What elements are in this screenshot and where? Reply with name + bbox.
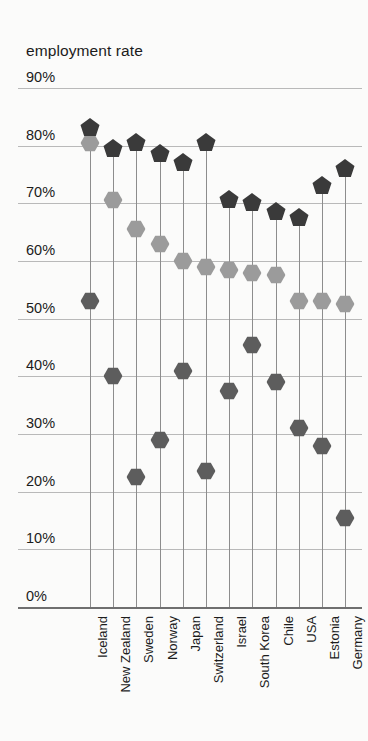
y-axis-tick-label: 0% [26,588,47,604]
data-point-marker [242,193,262,213]
data-point-marker [81,292,100,311]
column-stem-line [160,154,161,607]
x-axis-tick-label: Norway [165,616,180,660]
data-point-marker [219,190,239,210]
data-point-marker [266,266,285,285]
data-point-marker [197,462,216,481]
data-point-marker [173,361,192,380]
data-point-marker [173,153,193,173]
x-axis-tick-label: Switzerland [211,616,226,683]
gridline [18,319,362,320]
data-point-marker [220,381,239,400]
x-axis-tick-label: Germany [350,616,365,669]
column-stem-line [136,143,137,607]
data-point-marker [266,202,286,222]
y-axis-tick-label: 80% [26,127,55,143]
column-stem-line [299,218,300,607]
data-point-marker [150,144,170,164]
x-axis-tick-label: USA [304,616,319,643]
data-point-marker [197,257,216,276]
x-axis-tick-label: Sweden [141,616,156,663]
data-point-marker [173,252,192,271]
plot-area: 0%10%20%30%40%50%60%70%80%90%IcelandNew … [0,0,368,741]
gridline [18,549,362,550]
data-point-marker [243,263,262,282]
data-point-marker [196,133,216,153]
y-axis-tick-label: 40% [26,357,55,373]
data-point-marker [220,260,239,279]
data-point-marker [127,468,146,487]
y-axis-tick-label: 30% [26,415,55,431]
x-axis-line [18,607,362,609]
y-axis-tick-label: 60% [26,242,55,258]
data-point-marker [289,419,308,438]
x-axis-tick-label: New Zealand [118,616,133,693]
column-stem-line [345,169,346,607]
gridline [18,434,362,435]
gridline [18,146,362,147]
column-stem-line [322,186,323,607]
data-point-marker [289,292,308,311]
y-axis-tick-label: 20% [26,473,55,489]
data-point-marker [126,133,146,153]
data-point-marker [336,508,355,527]
data-point-marker [127,220,146,239]
x-axis-tick-label: Israel [234,616,249,648]
x-axis-tick-label: Estonia [327,616,342,659]
data-point-marker [312,176,332,196]
gridline [18,88,362,89]
data-point-marker [336,295,355,314]
data-point-marker [103,139,123,159]
y-axis-tick-label: 50% [26,300,55,316]
x-axis-tick-label: Japan [188,616,203,651]
x-axis-tick-label: Iceland [95,616,110,658]
x-axis-tick-label: South Korea [257,616,272,688]
data-point-marker [150,430,169,449]
y-axis-tick-label: 70% [26,184,55,200]
data-point-marker [80,118,100,138]
data-point-marker [335,159,355,179]
column-stem-line [206,143,207,607]
data-point-marker [266,373,285,392]
data-point-marker [313,436,332,455]
data-point-marker [289,208,309,228]
y-axis-tick-label: 90% [26,69,55,85]
data-point-marker [313,292,332,311]
data-point-marker [104,191,123,210]
data-point-marker [150,234,169,253]
column-stem-line [183,163,184,607]
data-point-marker [243,335,262,354]
column-stem-line [90,128,91,607]
data-point-marker [104,367,123,386]
employment-rate-chart: employment rate 0%10%20%30%40%50%60%70%8… [0,0,368,741]
x-axis-tick-label: Chile [281,616,296,646]
y-axis-tick-label: 10% [26,530,55,546]
gridline [18,203,362,204]
gridline [18,492,362,493]
